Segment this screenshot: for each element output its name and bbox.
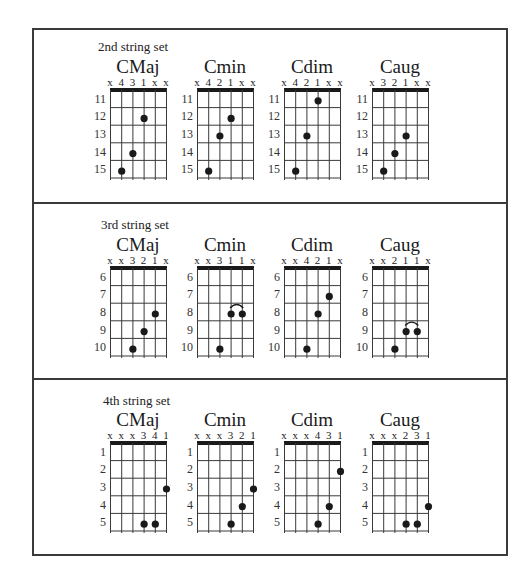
- fret-number: 12: [260, 110, 280, 122]
- fret-number: 5: [86, 516, 106, 528]
- nut-bar: [372, 266, 429, 270]
- fret-number: 10: [348, 341, 368, 353]
- finger-number: 1: [312, 77, 324, 88]
- chord-name-caug: Caug: [355, 410, 445, 429]
- finger-number: 1: [149, 255, 161, 266]
- fret-number: 11: [348, 93, 368, 105]
- finger-number: 1: [411, 255, 423, 266]
- nut-bar: [372, 88, 429, 92]
- finger-dot: [326, 503, 333, 510]
- fret-number: 1: [260, 446, 280, 458]
- finger-number: x: [191, 255, 203, 266]
- fret-number: 4: [173, 499, 193, 511]
- nut-bar: [197, 266, 254, 270]
- fretboard-grid-caug: [372, 266, 430, 358]
- fret-number: 9: [260, 324, 280, 336]
- finger-number: x: [278, 77, 290, 88]
- finger-dot: [141, 521, 148, 528]
- fret-number: 14: [86, 146, 106, 158]
- fretboard-grid-cmaj: [110, 88, 168, 180]
- finger-number: x: [115, 255, 127, 266]
- finger-dot: [141, 328, 148, 335]
- fret-number: 15: [86, 163, 106, 175]
- finger-dot: [403, 328, 410, 335]
- fret-number: 1: [348, 446, 368, 458]
- finger-number: 4: [115, 77, 127, 88]
- finger-number: x: [323, 77, 335, 88]
- finger-dot: [163, 485, 170, 492]
- finger-number: 2: [300, 77, 312, 88]
- finger-number: 3: [126, 77, 138, 88]
- nut-bar: [197, 441, 254, 445]
- finger-number: x: [289, 255, 301, 266]
- finger-number: 4: [202, 77, 214, 88]
- fret-number: 8: [86, 306, 106, 318]
- finger-number: x: [247, 77, 259, 88]
- nut-bar: [284, 88, 341, 92]
- fret-number: 14: [348, 146, 368, 158]
- chord-name-cmin: Cmin: [180, 235, 270, 254]
- section-label-4th-string-set: 4th string set: [103, 393, 170, 409]
- chord-name-cmaj: CMaj: [93, 235, 183, 254]
- finger-dot: [292, 168, 299, 175]
- fret-number: 8: [173, 306, 193, 318]
- nut-bar: [372, 441, 429, 445]
- barre-arc: [405, 322, 418, 326]
- finger-number: 1: [247, 430, 259, 441]
- fret-number: 2: [86, 463, 106, 475]
- chord-name-cdim: Cdim: [267, 57, 357, 76]
- finger-number: 3: [323, 430, 335, 441]
- finger-number: x: [300, 430, 312, 441]
- finger-number: x: [334, 77, 346, 88]
- section-label-2nd-string-set: 2nd string set: [98, 39, 168, 55]
- fretboard-grid-cdim: [284, 441, 342, 533]
- fret-number: 13: [348, 128, 368, 140]
- finger-number: x: [422, 255, 434, 266]
- finger-dot: [239, 503, 246, 510]
- finger-number: x: [191, 77, 203, 88]
- finger-number: 1: [160, 430, 172, 441]
- finger-number: 1: [422, 430, 434, 441]
- finger-dot: [152, 310, 159, 317]
- finger-dot: [129, 150, 136, 157]
- chord-name-cmin: Cmin: [180, 410, 270, 429]
- finger-number: 1: [225, 255, 237, 266]
- finger-dot: [216, 346, 223, 353]
- finger-number: x: [149, 77, 161, 88]
- finger-number: x: [388, 430, 400, 441]
- chord-name-cmin: Cmin: [180, 57, 270, 76]
- finger-number: x: [104, 77, 116, 88]
- chord-name-cmaj: CMaj: [93, 57, 183, 76]
- finger-dot: [216, 132, 223, 139]
- fret-number: 4: [86, 499, 106, 511]
- fret-number: 6: [86, 271, 106, 283]
- finger-number: x: [366, 430, 378, 441]
- finger-dot: [391, 150, 398, 157]
- finger-number: 1: [400, 77, 412, 88]
- fret-number: 7: [348, 288, 368, 300]
- chord-name-cdim: Cdim: [267, 235, 357, 254]
- finger-number: 1: [400, 255, 412, 266]
- fret-number: 3: [173, 481, 193, 493]
- chord-name-cmaj: CMaj: [93, 410, 183, 429]
- finger-number: 3: [377, 77, 389, 88]
- finger-number: x: [213, 430, 225, 441]
- finger-number: x: [278, 255, 290, 266]
- finger-number: 4: [289, 77, 301, 88]
- finger-dot: [303, 132, 310, 139]
- finger-number: x: [160, 255, 172, 266]
- fret-number: 2: [260, 463, 280, 475]
- finger-number: x: [236, 77, 248, 88]
- finger-dot: [141, 115, 148, 122]
- finger-dot: [152, 521, 159, 528]
- fretboard-grid-cmin: [197, 88, 255, 180]
- finger-dot: [391, 346, 398, 353]
- fret-number: 15: [348, 163, 368, 175]
- finger-number: 2: [388, 77, 400, 88]
- fret-number: 6: [260, 271, 280, 283]
- finger-dot: [118, 168, 125, 175]
- finger-number: x: [104, 430, 116, 441]
- finger-dot: [414, 328, 421, 335]
- fret-number: 1: [86, 446, 106, 458]
- fret-number: 4: [260, 499, 280, 511]
